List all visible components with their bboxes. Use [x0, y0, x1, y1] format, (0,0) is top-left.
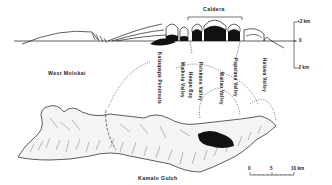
island-map [0, 0, 332, 185]
kamalo-gulch-label: Kamalo Gulch [138, 175, 178, 181]
halawa-valley-label: Halawa Valley [262, 58, 267, 92]
scale-bottom-label: -2 km [297, 65, 309, 70]
scale-zero-label: 0 [299, 38, 302, 43]
scale-bar-0: 0 [248, 166, 251, 171]
wailau-valley-label: Wailau Valley [219, 72, 224, 105]
scale-bar-5: 5 [270, 166, 273, 171]
caldera-label: Caldera [203, 6, 225, 12]
kalaupapa-label: Kalaupapa Peninsula [157, 52, 162, 104]
west-molokai-label: West Molokai [48, 70, 86, 76]
molokai-figure: Caldera +2 km 0 -2 km West Molokai Kamal… [0, 0, 332, 185]
pelekunu-valley-label: Pelekunu Valley [198, 62, 203, 101]
waikolu-valley-label: Waikolu Valley [180, 62, 185, 98]
papalaua-valley-label: Papalaua Valley [233, 58, 238, 97]
haupu-bay-label: Haupu Bay [188, 72, 193, 99]
scale-top-label: +2 km [297, 19, 310, 24]
scale-bar-10: 10 km [291, 166, 304, 171]
